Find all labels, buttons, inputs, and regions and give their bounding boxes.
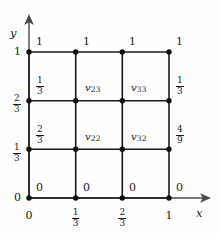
x-tick-one-third-numerator: 1	[72, 208, 80, 218]
unknown-v33-index: 33	[137, 85, 147, 94]
boundary-top-value-3: 1	[129, 36, 136, 47]
unknown-v22: v22	[85, 132, 101, 143]
boundary-left-value-upper: 1 3	[36, 76, 44, 96]
y-tick-1: 1	[14, 46, 21, 57]
boundary-right-value-lower-denominator: 9	[176, 135, 184, 146]
grid-diagram: y x 0 1 3 2 3 1 0 1 3 2 3 1 1 1 1 1 0 0 …	[0, 0, 219, 233]
x-tick-one-third: 1 3	[72, 208, 80, 228]
y-axis-label: y	[10, 28, 17, 40]
y-tick-one-third-numerator: 1	[13, 143, 21, 153]
boundary-left-value-lower: 2 3	[36, 125, 44, 145]
y-tick-two-thirds-numerator: 2	[13, 94, 21, 104]
unknown-v33: v33	[131, 83, 147, 94]
boundary-right-value-lower: 4 9	[176, 125, 184, 145]
boundary-bottom-value-3: 0	[129, 182, 136, 193]
unknown-v23-index: 23	[91, 85, 101, 94]
boundary-top-value-2: 1	[83, 36, 90, 47]
x-tick-one-third-denominator: 3	[72, 218, 80, 229]
boundary-left-value-upper-numerator: 1	[36, 76, 44, 86]
x-tick-1: 1	[166, 210, 173, 221]
boundary-right-value-upper-denominator: 3	[176, 86, 184, 97]
y-tick-two-thirds-denominator: 3	[13, 104, 21, 115]
grid-vertical-lines	[29, 52, 169, 198]
boundary-right-value-upper-numerator: 1	[176, 76, 184, 86]
boundary-right-value-upper: 1 3	[176, 76, 184, 96]
unknown-v22-index: 22	[91, 134, 101, 143]
boundary-right-value-lower-numerator: 4	[176, 125, 184, 135]
boundary-bottom-value-1: 0	[36, 182, 43, 193]
y-tick-0: 0	[14, 192, 21, 203]
x-tick-two-thirds: 2 3	[118, 208, 126, 228]
unknown-v32-index: 32	[137, 134, 147, 143]
boundary-left-value-upper-denominator: 3	[36, 86, 44, 97]
boundary-left-value-lower-numerator: 2	[36, 125, 44, 135]
x-axis-label: x	[196, 208, 203, 220]
x-tick-two-thirds-numerator: 2	[118, 208, 126, 218]
grid-nodes	[26, 49, 171, 200]
boundary-bottom-value-4: 0	[176, 182, 183, 193]
diagram-canvas	[0, 0, 219, 233]
boundary-bottom-value-2: 0	[83, 182, 90, 193]
y-tick-one-third: 1 3	[13, 143, 21, 163]
grid-horizontal-lines	[29, 52, 169, 198]
boundary-top-value-4: 1	[176, 36, 183, 47]
unknown-v23: v23	[85, 83, 101, 94]
boundary-top-value-1: 1	[36, 36, 43, 47]
x-tick-two-thirds-denominator: 3	[118, 218, 126, 229]
boundary-left-value-lower-denominator: 3	[36, 135, 44, 146]
y-tick-two-thirds: 2 3	[13, 94, 21, 114]
y-tick-one-third-denominator: 3	[13, 153, 21, 164]
x-tick-0: 0	[26, 210, 33, 221]
unknown-v32: v32	[131, 132, 147, 143]
